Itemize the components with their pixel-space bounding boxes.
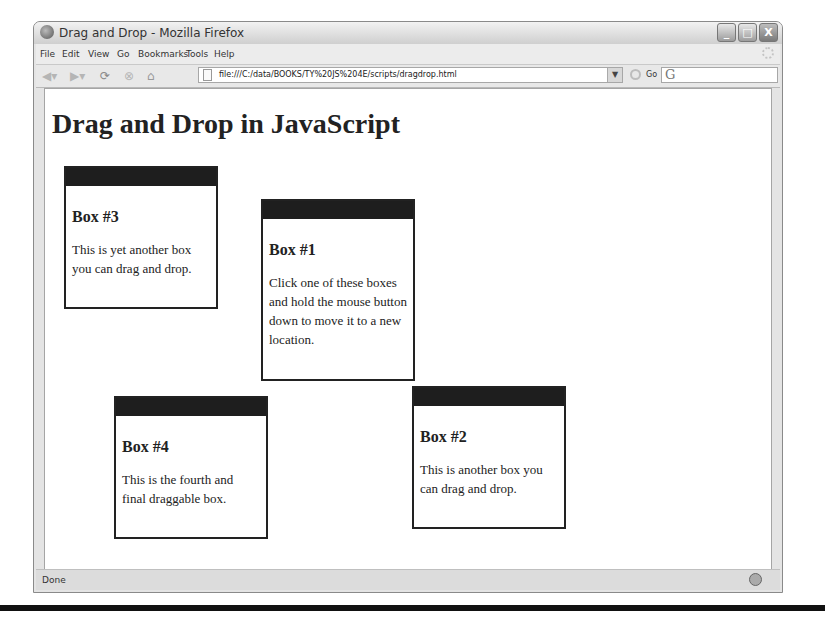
maximize-button[interactable]: □	[738, 23, 757, 42]
box-title: Box #4	[122, 438, 260, 456]
home-icon[interactable]: ⌂	[147, 69, 155, 83]
stop-icon[interactable]: ⊗	[124, 69, 134, 83]
search-input[interactable]: G	[661, 67, 778, 83]
firefox-icon	[40, 25, 54, 39]
url-text[interactable]: file:///C:/data/BOOKS/TY%20JS%204E/scrip…	[219, 70, 457, 79]
search-engine-icon[interactable]: G	[665, 67, 675, 82]
draggable-box-3[interactable]: Box #3 This is yet another box you can d…	[64, 166, 218, 309]
navigation-toolbar: ◀▾ ▶▾ ⟳ ⊗ ⌂ file:///C:/data/BOOKS/TY%20J…	[36, 65, 780, 88]
status-text: Done	[42, 575, 66, 585]
menu-edit[interactable]: Edit	[62, 49, 79, 59]
menu-bar: File Edit View Go Bookmarks Tools Help	[36, 44, 780, 65]
menu-help[interactable]: Help	[214, 49, 235, 59]
box-title: Box #2	[420, 428, 558, 446]
draggable-box-2[interactable]: Box #2 This is another box you can drag …	[412, 386, 566, 529]
page-icon	[203, 69, 212, 81]
throbber-icon	[762, 47, 774, 59]
menu-bookmarks[interactable]: Bookmarks	[138, 49, 188, 59]
window-controls: _ □ X	[717, 23, 778, 42]
reload-icon[interactable]: ⟳	[100, 69, 110, 83]
title-bar[interactable]: Drag and Drop - Mozilla Firefox _ □ X	[34, 22, 782, 44]
go-icon[interactable]	[630, 69, 641, 80]
drag-handle[interactable]	[414, 388, 564, 406]
close-button[interactable]: X	[759, 23, 778, 42]
drag-handle[interactable]	[263, 201, 413, 219]
box-text: Click one of these boxes and hold the mo…	[269, 273, 407, 349]
window-title: Drag and Drop - Mozilla Firefox	[59, 26, 244, 40]
forward-icon[interactable]: ▶▾	[70, 69, 85, 83]
go-button[interactable]: Go	[646, 70, 657, 79]
box-text: This is yet another box you can drag and…	[72, 240, 210, 278]
draggable-box-4[interactable]: Box #4 This is the fourth and final drag…	[114, 396, 268, 539]
box-title: Box #3	[72, 208, 210, 226]
minimize-button[interactable]: _	[717, 23, 736, 42]
drag-handle[interactable]	[116, 398, 266, 416]
menu-file[interactable]: File	[40, 49, 55, 59]
back-icon[interactable]: ◀▾	[42, 69, 57, 83]
drag-handle[interactable]	[66, 168, 216, 186]
menu-tools[interactable]: Tools	[186, 49, 208, 59]
menu-go[interactable]: Go	[117, 49, 129, 59]
draggable-box-1[interactable]: Box #1 Click one of these boxes and hold…	[261, 199, 415, 381]
menu-view[interactable]: View	[88, 49, 109, 59]
status-icon	[749, 573, 762, 586]
url-history-dropdown[interactable]: ▼	[607, 68, 622, 82]
url-bar[interactable]: file:///C:/data/BOOKS/TY%20JS%204E/scrip…	[198, 67, 623, 83]
status-bar: Done	[36, 569, 780, 590]
box-text: This is the fourth and final draggable b…	[122, 470, 260, 508]
box-title: Box #1	[269, 241, 407, 259]
box-text: This is another box you can drag and dro…	[420, 460, 558, 498]
page-title: Drag and Drop in JavaScript	[52, 108, 400, 140]
page-divider	[0, 605, 825, 611]
